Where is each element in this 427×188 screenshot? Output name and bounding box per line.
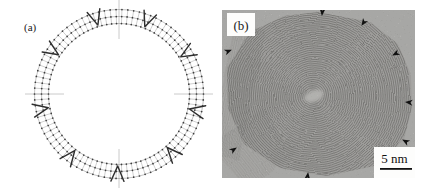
panel-a-label: (a) [24,21,37,34]
panel-a-schematic: (a) [0,0,213,188]
panel-a-generated-drawing [25,0,213,188]
scale-bar-line [380,168,412,170]
scale-bar: 5 nm [374,147,415,178]
figure-canvas: (a) (b) 5 nm [0,0,427,188]
panel-b-micrograph: (b) 5 nm [222,10,415,178]
panel-b-label: (b) [233,18,248,33]
panel-b-label-box: (b) [227,13,255,36]
scale-bar-label: 5 nm [381,151,407,166]
